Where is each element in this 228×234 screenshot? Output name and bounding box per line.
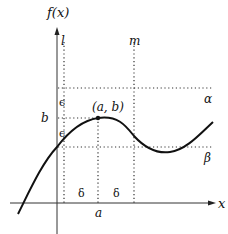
line-m-label: m (129, 34, 140, 48)
y-axis-label: f(x) (46, 5, 69, 20)
dotted-guides (58, 42, 213, 203)
delta-right-label: δ (113, 187, 120, 200)
alpha-label: α (204, 92, 212, 106)
x-axis-label: x (218, 196, 226, 211)
axes (10, 32, 210, 234)
point-a-b (96, 116, 100, 120)
line-l-label: l (61, 34, 65, 48)
epsilon-lower-label: ϵ (59, 127, 65, 140)
beta-label: β (203, 151, 211, 165)
x-axis-arrow-icon (208, 201, 216, 206)
epsilon-upper-label: ϵ (59, 96, 65, 109)
point-label: (a, b) (92, 100, 124, 114)
y-axis-arrow-icon (55, 27, 60, 35)
x-tick-a: a (95, 206, 102, 220)
delta-left-label: δ (78, 187, 85, 200)
y-tick-b: b (41, 111, 49, 125)
function-diagram: f(x) x l m α β (a, b) b a ϵ ϵ δ δ (0, 0, 228, 234)
